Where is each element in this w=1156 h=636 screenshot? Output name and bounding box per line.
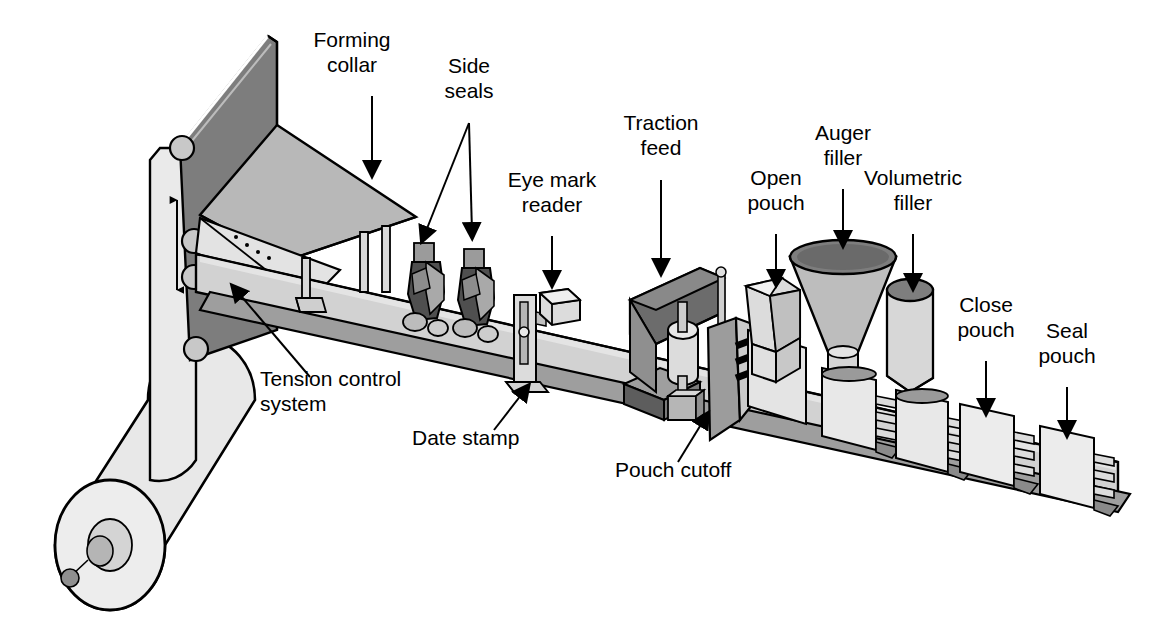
eye-mark-sensor [540,289,580,325]
volumetric-unit [887,279,933,392]
label-text-date-stamp: Date stamp [412,426,519,449]
open-pouch-unit [746,278,800,382]
label-text-pouch-cutoff: Pouch cutoff [615,458,732,481]
tension-roller-top [170,136,194,160]
tension-roller-bottom [184,337,208,361]
diagram-canvas: FormingcollarSidesealsEye markreaderTrac… [0,0,1156,636]
volumetric-mouth [887,279,933,301]
roll-shaft-end [61,569,79,587]
